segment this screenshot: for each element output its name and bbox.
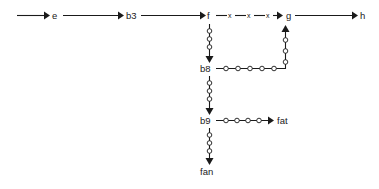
- edge-bead: [207, 29, 212, 34]
- edge-bead: [224, 118, 229, 123]
- edge-bead: [257, 118, 262, 123]
- node-fat[interactable]: fat: [277, 115, 288, 126]
- edge-b8-to-g-path: [216, 26, 286, 69]
- node-g[interactable]: g: [286, 10, 291, 21]
- edge-e-to-b3: [63, 12, 124, 20]
- edge-b3-to-f: [141, 12, 206, 20]
- edge-bead: [207, 37, 212, 42]
- edge-f-to-b8: [206, 24, 214, 63]
- edge-b8-to-b9: [206, 76, 214, 115]
- edge-bead: [236, 66, 241, 71]
- edge-start-to-e-arrowhead: [44, 12, 50, 20]
- edge-bead: [207, 81, 212, 86]
- edge-b8-to-g-arrowhead: [282, 25, 290, 32]
- edge-bead: [283, 60, 288, 65]
- edge-start-to-e: [17, 12, 50, 20]
- edge-f-to-b8-arrowhead: [206, 56, 214, 63]
- edge-f-to-g-label-1: x: [247, 12, 251, 19]
- edge-bead: [224, 66, 229, 71]
- edge-bead: [235, 118, 240, 123]
- edge-f-to-g-label-0: x: [228, 12, 232, 19]
- node-fan[interactable]: fan: [200, 166, 213, 177]
- edge-b8-to-b9-arrowhead: [206, 108, 214, 115]
- edge-bead: [207, 141, 212, 146]
- edge-e-to-b3-arrowhead: [118, 12, 124, 20]
- edge-b9-to-fat: [216, 117, 274, 125]
- edge-bead: [283, 38, 288, 43]
- edge-b9-to-fat-arrowhead: [268, 117, 274, 125]
- edge-f-to-g-label-2: x: [266, 12, 270, 19]
- edge-bead: [260, 66, 265, 71]
- edge-bead: [207, 149, 212, 154]
- edge-bead: [246, 118, 251, 123]
- flow-graph-svg: e b3 f x x x g: [0, 0, 379, 189]
- node-f[interactable]: f: [207, 10, 210, 21]
- edge-g-to-h: [295, 12, 358, 20]
- edge-b9-to-fan: [206, 128, 214, 165]
- edge-bead: [207, 97, 212, 102]
- edge-b9-to-fan-arrowhead: [206, 158, 214, 165]
- edge-bead: [272, 66, 277, 71]
- edge-bead: [283, 49, 288, 54]
- node-e[interactable]: e: [52, 10, 57, 21]
- edge-bead: [207, 89, 212, 94]
- node-h[interactable]: h: [360, 10, 365, 21]
- node-b9[interactable]: b9: [200, 115, 211, 126]
- edge-f-to-g: x x x: [216, 12, 283, 20]
- edge-f-to-g-arrowhead: [277, 12, 283, 20]
- edge-g-to-h-arrowhead: [352, 12, 358, 20]
- edge-b8-to-g: [216, 25, 290, 71]
- diagram-canvas: e b3 f x x x g: [0, 0, 379, 189]
- edge-b3-to-f-arrowhead: [200, 12, 206, 20]
- edge-bead: [207, 45, 212, 50]
- edge-bead: [207, 133, 212, 138]
- node-b3[interactable]: b3: [126, 10, 137, 21]
- node-b8[interactable]: b8: [200, 63, 211, 74]
- edge-bead: [248, 66, 253, 71]
